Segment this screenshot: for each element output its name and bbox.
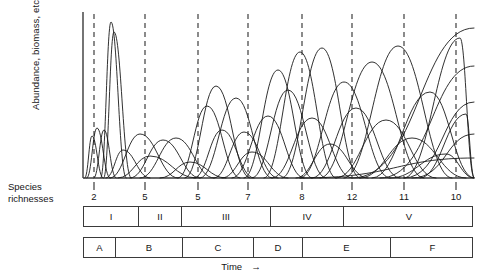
rising-tail-tail-03: [404, 102, 474, 178]
species-curve-sp-22: [272, 118, 352, 178]
species-curve-sp-08: [118, 156, 196, 178]
species-richness-label: Species richnesses: [8, 181, 80, 204]
stage-band-letter-C: C: [183, 238, 254, 257]
richness-tick-label-6: 11: [393, 191, 415, 202]
species-curve-sp-20: [252, 90, 326, 178]
stage-band-letter-D: D: [254, 238, 303, 257]
richness-tick-label-3: 7: [237, 191, 259, 202]
species-curve-sp-16: [214, 132, 278, 178]
x-axis-label-text: Time: [221, 261, 242, 272]
stage-band-roman-III: III: [182, 207, 271, 226]
stage-band-letter-F: F: [391, 238, 474, 257]
stage-band-row-letter: ABCDEF: [83, 237, 473, 258]
species-curve-sp-25: [300, 82, 390, 178]
species-curve-group: [85, 22, 474, 178]
stage-band-letter-A: A: [84, 238, 116, 257]
stage-band-roman-V: V: [344, 207, 474, 226]
richness-tick-label-4: 8: [291, 191, 313, 202]
species-curve-sp-12: [178, 106, 240, 178]
succession-figure: Abundance, biomass, etc. Species richnes…: [0, 0, 482, 280]
stage-band-roman-II: II: [139, 207, 182, 226]
species-curve-sp-29: [344, 46, 452, 178]
species-richness-label-line1: Species: [8, 181, 42, 192]
richness-tick-label-1: 5: [134, 191, 156, 202]
stage-band-row-roman: IIIIIIIVV: [83, 206, 473, 227]
stage-band-letter-B: B: [116, 238, 183, 257]
richness-tick-label-5: 12: [341, 191, 363, 202]
richness-tick-label-2: 5: [187, 191, 209, 202]
species-curve-sp-15: [200, 98, 272, 178]
stage-band-roman-IV: IV: [271, 207, 344, 226]
arrow-right-icon: →: [251, 261, 261, 272]
species-richness-label-line2: richnesses: [8, 193, 53, 204]
species-curve-sp-27: [320, 62, 424, 178]
species-curve-sp-14: [194, 130, 254, 178]
species-curve-sp-07: [110, 134, 178, 178]
stage-band-letter-E: E: [303, 238, 391, 257]
x-axis-label: Time→: [0, 261, 482, 272]
stage-band-roman-I: I: [84, 207, 139, 226]
richness-tick-label-7: 10: [445, 191, 467, 202]
species-curve-sp-10: [140, 138, 214, 178]
richness-tick-label-0: 2: [83, 191, 105, 202]
